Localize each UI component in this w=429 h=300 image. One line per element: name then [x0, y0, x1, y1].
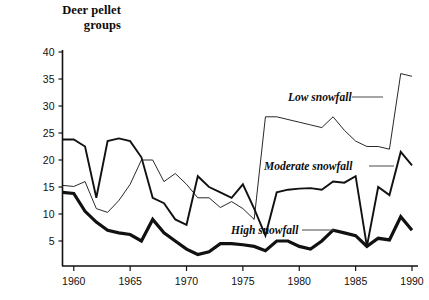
- x-tick-label: 1960: [62, 275, 86, 287]
- y-tick-label: 35: [43, 73, 55, 85]
- x-tick-label: 1970: [175, 275, 199, 287]
- series-label-low-snowfall: Low snowfall: [287, 91, 352, 104]
- y-tick-label: 15: [43, 181, 55, 193]
- y-tick-label: 20: [43, 154, 55, 166]
- y-axis-ticks: 403530252015105: [43, 46, 63, 247]
- line-chart-plot: 403530252015105 196019651970197519801985…: [0, 0, 429, 300]
- series-label-moderate-snowfall: Moderate snowfall: [263, 160, 353, 173]
- series-label-high-snowfall: High snowfall: [230, 224, 299, 237]
- y-tick-label: 30: [43, 100, 55, 112]
- y-tick-label: 5: [49, 235, 55, 247]
- x-tick-label: 1980: [288, 275, 312, 287]
- x-tick-label: 1985: [344, 275, 368, 287]
- y-tick-label: 40: [43, 46, 55, 58]
- annotation-high-snowfall: High snowfall: [230, 224, 334, 237]
- x-tick-label: 1965: [118, 275, 142, 287]
- y-tick-label: 10: [43, 208, 55, 220]
- x-axis-ticks: 1960196519701975198019851990: [62, 266, 424, 287]
- y-tick-label: 25: [43, 127, 55, 139]
- annotation-moderate-snowfall: Moderate snowfall: [263, 160, 394, 173]
- chart-figure: Deer pellet groups 403530252015105 19601…: [0, 0, 429, 300]
- annotation-low-snowfall: Low snowfall: [287, 91, 383, 104]
- x-tick-label: 1990: [400, 275, 424, 287]
- x-tick-label: 1975: [231, 275, 255, 287]
